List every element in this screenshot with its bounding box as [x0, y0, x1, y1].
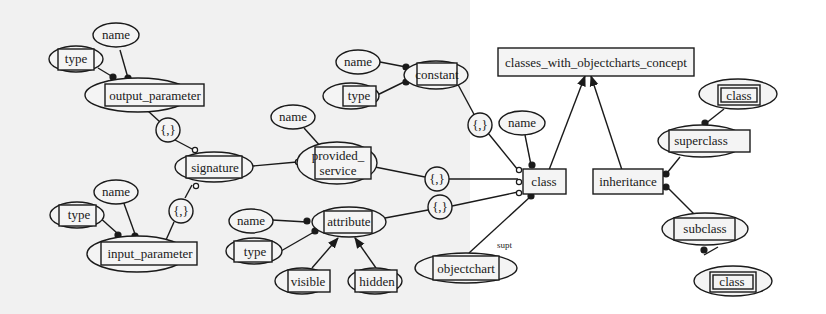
svg-text:subclass: subclass — [683, 221, 726, 236]
node-subclass: subclass — [662, 213, 748, 245]
node-attribute: attribute — [312, 207, 386, 237]
node-hidden: hidden — [348, 268, 402, 294]
node-output-name: name — [93, 23, 139, 47]
svg-text:name: name — [344, 54, 372, 69]
svg-text:{,}: {,} — [432, 199, 448, 214]
svg-text:superclass: superclass — [674, 133, 727, 148]
node-superclass-class: class — [699, 79, 777, 109]
node-signature: signature — [175, 152, 253, 182]
svg-text:name: name — [237, 213, 265, 228]
node-subclass-class: class — [694, 266, 772, 296]
node-visible: visible — [275, 268, 330, 294]
svg-text:type: type — [244, 244, 267, 259]
node-input-type: type — [50, 202, 104, 228]
svg-text:hidden: hidden — [359, 274, 395, 289]
node-output-parameter: output_parameter — [85, 78, 204, 112]
group-constant: {,} — [468, 113, 492, 137]
node-class-name: name — [499, 111, 545, 135]
node-constant-name: name — [336, 50, 380, 74]
feature-diagram: classes_with_objectcharts_concept class … — [0, 0, 826, 314]
node-input-parameter: input_parameter — [87, 236, 197, 272]
svg-text:classes_with_objectcharts_conc: classes_with_objectcharts_concept — [505, 55, 687, 70]
node-objectchart: objectchart — [415, 253, 517, 283]
svg-text:type: type — [348, 88, 371, 103]
svg-text:class: class — [726, 88, 751, 103]
svg-text:class: class — [531, 174, 556, 189]
node-input-name: name — [94, 180, 138, 204]
node-provided-service: provided_ service — [297, 142, 377, 184]
node-attribute-name: name — [229, 209, 273, 233]
svg-text:{,}: {,} — [472, 117, 488, 132]
node-output-type: type — [49, 46, 103, 72]
node-attribute-type: type — [226, 238, 282, 264]
svg-text:constant: constant — [415, 67, 459, 82]
edge-label-supt: supt — [497, 240, 513, 250]
svg-text:name: name — [279, 109, 307, 124]
svg-text:inheritance: inheritance — [599, 174, 657, 189]
svg-text:attribute: attribute — [327, 214, 371, 229]
svg-text:type: type — [68, 207, 91, 222]
node-class: class — [523, 169, 566, 194]
svg-text:{,}: {,} — [160, 122, 176, 137]
svg-text:name: name — [508, 115, 536, 130]
group-provided-service: {,} — [425, 167, 449, 191]
svg-text:output_parameter: output_parameter — [109, 88, 201, 103]
svg-text:class: class — [719, 274, 744, 289]
group-input-parameter: {,} — [169, 199, 193, 223]
svg-text:input_parameter: input_parameter — [107, 246, 193, 261]
group-attribute: {,} — [428, 195, 452, 219]
group-output-parameter: {,} — [156, 118, 180, 142]
svg-text:name: name — [102, 184, 130, 199]
node-constant-type: type — [323, 83, 379, 109]
node-classes-with-objectcharts-concept: classes_with_objectcharts_concept — [498, 48, 694, 76]
svg-text:objectchart: objectchart — [437, 261, 495, 276]
svg-text:provided_: provided_ — [312, 148, 365, 163]
svg-text:type: type — [65, 51, 88, 66]
svg-text:name: name — [102, 27, 130, 42]
node-superclass: superclass — [658, 125, 750, 157]
svg-text:service: service — [320, 163, 357, 178]
node-inheritance: inheritance — [593, 169, 663, 194]
svg-text:visible: visible — [291, 274, 326, 289]
svg-text:signature: signature — [191, 160, 239, 175]
svg-text:{,}: {,} — [173, 203, 189, 218]
node-service-name: name — [271, 105, 315, 129]
node-constant: constant — [404, 61, 468, 89]
svg-text:{,}: {,} — [429, 171, 445, 186]
